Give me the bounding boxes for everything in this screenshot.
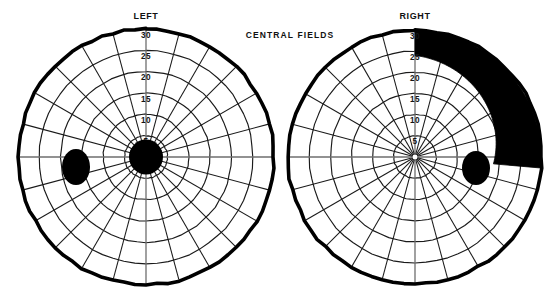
blind-spot <box>62 149 90 185</box>
visual-field-chart-sheet: LEFT CENTRAL FIELDS RIGHT 30252015105302… <box>0 0 554 300</box>
ring-label-30: 30 <box>141 31 151 40</box>
central-scotoma <box>129 140 163 175</box>
ring-label-15: 15 <box>141 95 151 104</box>
ring-label-20: 20 <box>410 74 420 83</box>
ring-label-10: 10 <box>410 116 420 125</box>
blind-spot <box>462 151 490 185</box>
ring-label-25: 25 <box>141 52 151 61</box>
ring-label-30: 30 <box>410 32 420 41</box>
ring-label-25: 25 <box>410 53 420 62</box>
visual-field-plots: 3025201510530252015105 <box>0 0 554 300</box>
chart-right-eye: 30252015105 <box>288 30 542 284</box>
chart-left-eye: 30252015105 <box>18 28 274 285</box>
ring-label-5: 5 <box>413 137 418 146</box>
ring-label-10: 10 <box>141 116 151 125</box>
ring-label-15: 15 <box>410 95 420 104</box>
ring-label-20: 20 <box>141 73 151 82</box>
